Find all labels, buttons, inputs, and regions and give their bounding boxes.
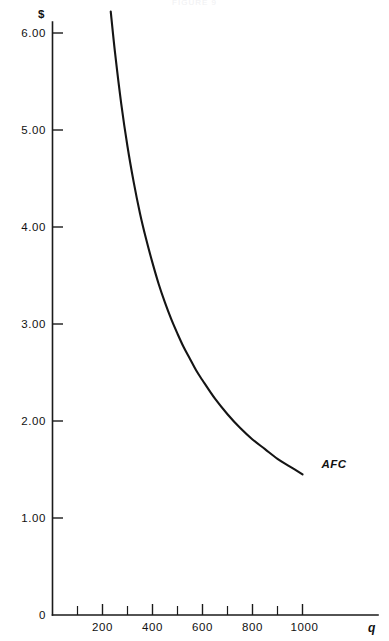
afc-curve-path <box>111 12 303 475</box>
y-tick-label-6: 6.00 <box>21 27 46 39</box>
y-tick-label-3: 3.00 <box>21 318 46 330</box>
x-tick-label-200: 200 <box>92 621 113 633</box>
x-tick-label-800: 800 <box>242 621 263 633</box>
y-tick-label-4: 4.00 <box>21 221 46 233</box>
y-tick-label-0: 0 <box>39 609 46 621</box>
y-tick-marks <box>53 33 64 518</box>
x-tick-label-1000: 1000 <box>291 621 319 633</box>
figure-root: FIGURE 9 6.00 5.00 4.00 3.00 2.00 1.00 0… <box>0 0 389 641</box>
afc-chart: 6.00 5.00 4.00 3.00 2.00 1.00 0 $ 200 40… <box>0 0 389 641</box>
x-tick-label-400: 400 <box>142 621 163 633</box>
x-major-tick-marks <box>103 604 303 615</box>
y-tick-label-2: 2.00 <box>21 415 46 427</box>
afc-series-label: AFC <box>321 458 347 470</box>
y-tick-label-1: 1.00 <box>21 512 46 524</box>
x-axis-title: q <box>368 621 376 635</box>
x-tick-label-600: 600 <box>192 621 213 633</box>
y-tick-label-5: 5.00 <box>21 124 46 136</box>
y-axis-title: $ <box>38 8 45 20</box>
x-minor-tick-marks <box>78 606 278 615</box>
